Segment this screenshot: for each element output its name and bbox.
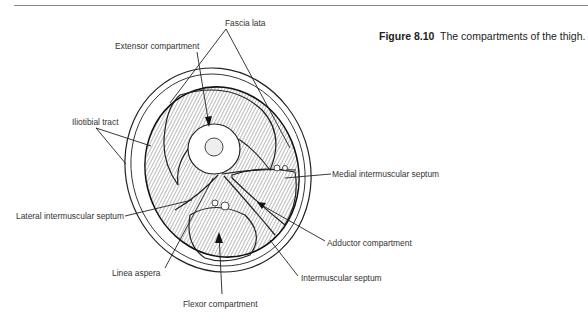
label-adductor-compartment: Adductor compartment bbox=[327, 238, 412, 248]
vessel bbox=[212, 200, 218, 206]
vessel bbox=[274, 165, 280, 171]
femur-marrow bbox=[205, 138, 223, 156]
label-lateral-intermuscular-septum: Lateral intermuscular septum bbox=[16, 211, 124, 221]
leader-iliotibial-2 bbox=[96, 128, 126, 164]
vessel bbox=[221, 202, 229, 210]
label-extensor-compartment: Extensor compartment bbox=[115, 41, 199, 51]
label-flexor-compartment: Flexor compartment bbox=[183, 299, 257, 309]
vessel bbox=[283, 166, 288, 171]
label-medial-intermuscular-septum: Medial intermuscular septum bbox=[332, 169, 439, 179]
label-iliotibial-tract: Iliotibial tract bbox=[72, 117, 119, 127]
label-intermuscular-septum: Intermuscular septum bbox=[301, 273, 382, 283]
label-fascia-lata: Fascia lata bbox=[225, 18, 266, 28]
thigh-cross-section-illustration bbox=[0, 0, 588, 318]
label-linea-aspera: Linea aspera bbox=[112, 268, 160, 278]
